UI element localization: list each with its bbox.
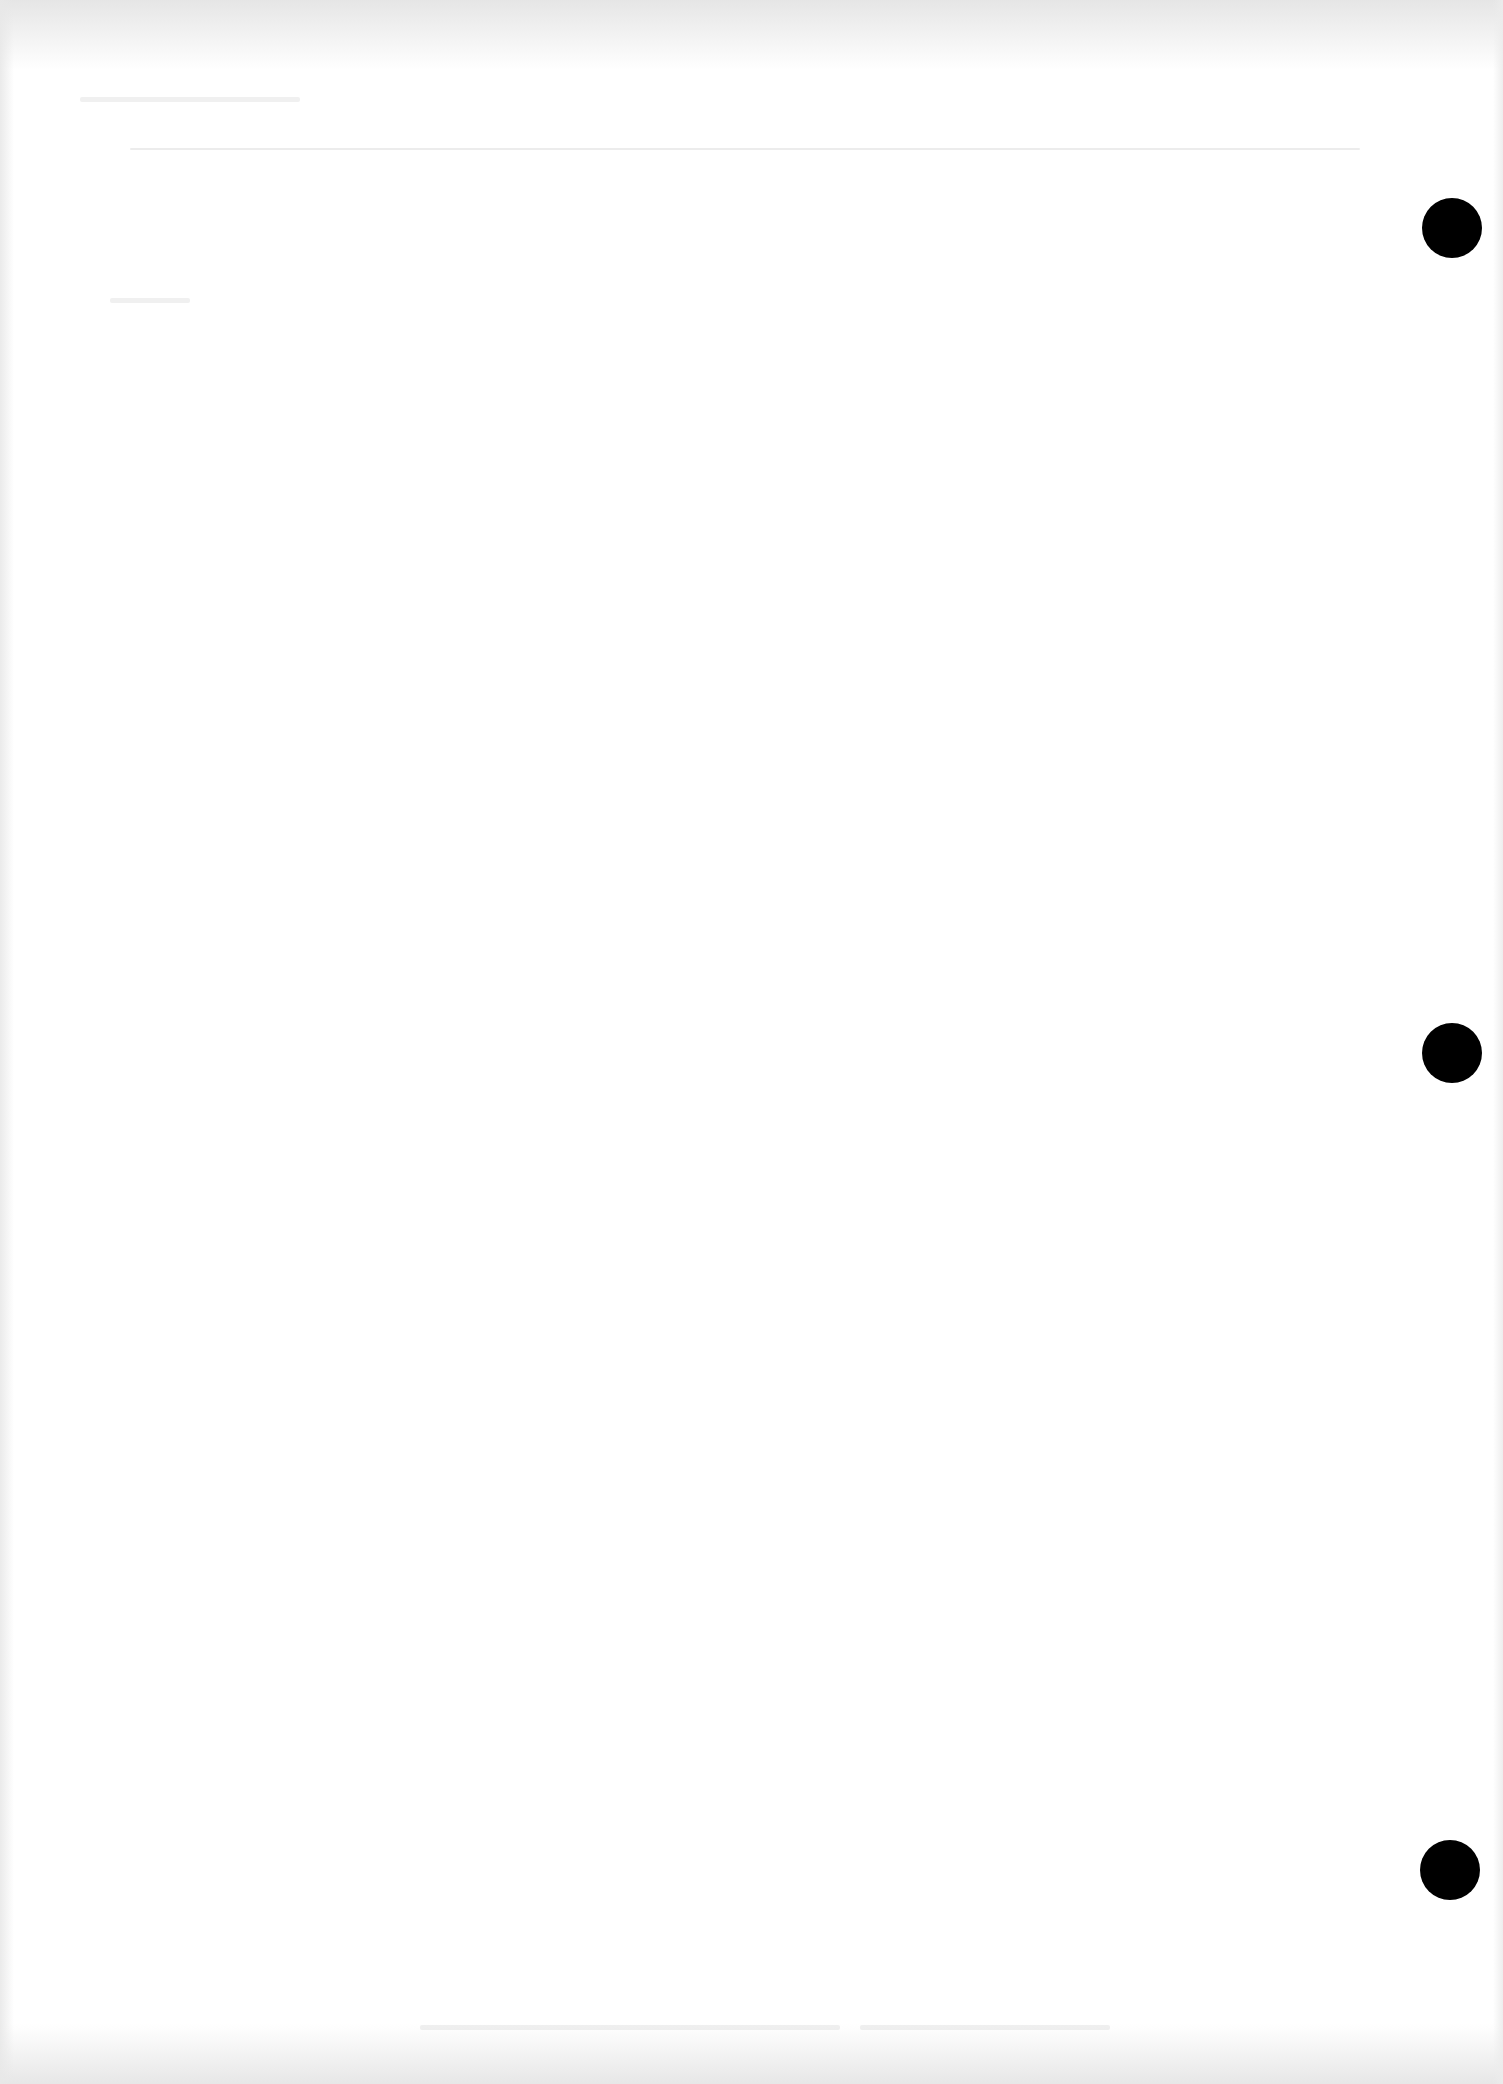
scan-shadow-top <box>0 0 1503 70</box>
show-through-text <box>420 2025 840 2030</box>
scan-shadow-left <box>0 0 14 2084</box>
show-through-text <box>110 298 190 303</box>
punch-hole-middle <box>1422 1023 1482 1083</box>
show-through-text <box>80 97 300 102</box>
scan-shadow-right <box>1493 0 1503 2084</box>
scan-shadow-bottom <box>0 2024 1503 2084</box>
show-through-text <box>860 2025 1110 2030</box>
scanned-page <box>0 0 1503 2084</box>
show-through-rule <box>130 148 1360 150</box>
punch-hole-top <box>1422 198 1482 258</box>
punch-hole-bottom <box>1420 1840 1480 1900</box>
